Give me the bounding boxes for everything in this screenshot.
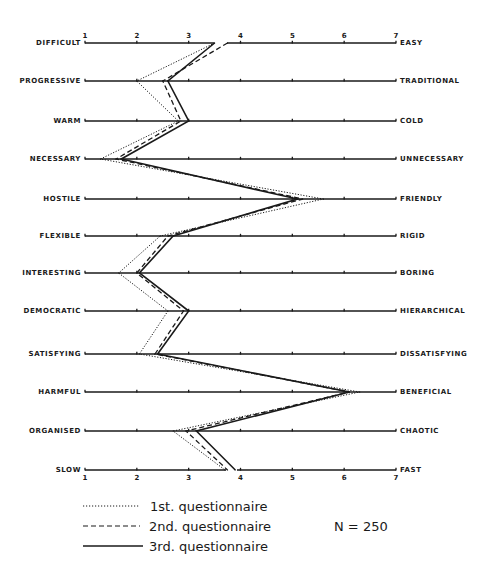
scale-row: DEMOCRATICHIERARCHICAL bbox=[24, 307, 466, 315]
legend-label-3rd: 3rd. questionnaire bbox=[149, 539, 268, 554]
sample-size-annotation: N = 250 bbox=[334, 519, 388, 534]
tick-label: 5 bbox=[290, 32, 295, 40]
left-pole-label: WARM bbox=[53, 117, 81, 125]
data-point bbox=[154, 353, 155, 354]
right-pole-label: BORING bbox=[400, 269, 435, 277]
data-point bbox=[139, 353, 140, 354]
scale-row: HOSTILEFRIENDLY bbox=[43, 195, 442, 203]
tick-label: 4 bbox=[238, 32, 243, 40]
data-point bbox=[139, 272, 140, 273]
legend: 1st. questionnaire 2nd. questionnaire 3r… bbox=[83, 499, 388, 554]
left-pole-label: ORGANISED bbox=[29, 427, 81, 435]
data-point bbox=[157, 353, 158, 354]
scale-row: 1234567SLOWFAST bbox=[56, 466, 422, 482]
data-point bbox=[116, 158, 117, 159]
scale-row: HARMFULBENEFICIAL bbox=[38, 388, 452, 396]
data-point bbox=[188, 120, 189, 121]
data-point bbox=[227, 469, 228, 470]
left-pole-label: FLEXIBLE bbox=[40, 232, 81, 240]
data-point bbox=[167, 80, 168, 81]
tick-label: 3 bbox=[186, 474, 191, 482]
tick-label: 7 bbox=[394, 32, 399, 40]
right-pole-label: TRADITIONAL bbox=[400, 77, 460, 85]
data-point bbox=[183, 310, 184, 311]
right-pole-label: BENEFICIAL bbox=[400, 388, 452, 396]
data-point bbox=[167, 235, 168, 236]
left-pole-label: NECESSARY bbox=[30, 155, 82, 163]
series-line-dotted bbox=[101, 43, 360, 470]
left-pole-label: DEMOCRATIC bbox=[24, 307, 81, 315]
data-point bbox=[323, 198, 324, 199]
scale-row: ORGANISEDCHAOTIC bbox=[29, 427, 439, 435]
data-point bbox=[235, 469, 236, 470]
tick-label: 7 bbox=[394, 474, 399, 482]
tick-label: 6 bbox=[342, 474, 347, 482]
tick-label: 1 bbox=[83, 32, 88, 40]
tick-label: 1 bbox=[83, 474, 88, 482]
series-line-solid bbox=[121, 43, 349, 470]
left-pole-label: DIFFICULT bbox=[36, 39, 81, 47]
data-point bbox=[167, 310, 168, 311]
data-point bbox=[160, 235, 161, 236]
data-point bbox=[136, 80, 137, 81]
data-point bbox=[173, 235, 174, 236]
legend-label-2nd: 2nd. questionnaire bbox=[149, 519, 271, 534]
right-pole-label: COLD bbox=[400, 117, 424, 125]
right-pole-label: RIGID bbox=[400, 232, 425, 240]
data-point bbox=[185, 430, 186, 431]
left-pole-label: SLOW bbox=[56, 466, 81, 474]
semantic-differential-chart: 1234567DIFFICULTEASYPROGRESSIVETRADITION… bbox=[0, 0, 485, 580]
data-point bbox=[173, 430, 174, 431]
left-pole-label: SATISFYING bbox=[29, 350, 81, 358]
right-pole-label: UNNECESSARY bbox=[400, 155, 464, 163]
axes-group: 1234567DIFFICULTEASYPROGRESSIVETRADITION… bbox=[19, 32, 467, 482]
data-point bbox=[162, 80, 163, 81]
data-point bbox=[214, 42, 215, 43]
left-pole-label: INTERESTING bbox=[22, 269, 81, 277]
scale-row: FLEXIBLERIGID bbox=[40, 232, 426, 240]
tick-label: 2 bbox=[134, 474, 139, 482]
scale-row: 1234567DIFFICULTEASY bbox=[36, 32, 423, 47]
series-line-dashed bbox=[116, 43, 349, 470]
scale-row: WARMCOLD bbox=[53, 117, 423, 125]
data-point bbox=[224, 469, 225, 470]
tick-label: 3 bbox=[186, 32, 191, 40]
data-point bbox=[349, 391, 350, 392]
left-pole-label: HOSTILE bbox=[43, 195, 81, 203]
data-point bbox=[297, 198, 298, 199]
tick-label: 5 bbox=[290, 474, 295, 482]
legend-label-1st: 1st. questionnaire bbox=[150, 499, 267, 514]
series-group bbox=[100, 42, 360, 470]
right-pole-label: FAST bbox=[400, 466, 422, 474]
right-pole-label: DISSATISFYING bbox=[400, 350, 467, 358]
right-pole-label: HIERARCHICAL bbox=[400, 307, 465, 315]
right-pole-label: CHAOTIC bbox=[400, 427, 439, 435]
data-point bbox=[188, 310, 189, 311]
data-point bbox=[227, 42, 228, 43]
tick-label: 6 bbox=[342, 32, 347, 40]
data-point bbox=[118, 272, 119, 273]
data-point bbox=[359, 391, 360, 392]
data-point bbox=[121, 158, 122, 159]
tick-label: 4 bbox=[238, 474, 243, 482]
data-point bbox=[196, 430, 197, 431]
scale-row: PROGRESSIVETRADITIONAL bbox=[19, 77, 459, 85]
data-point bbox=[136, 272, 137, 273]
right-pole-label: EASY bbox=[400, 39, 423, 47]
data-point bbox=[180, 120, 181, 121]
data-point bbox=[302, 198, 303, 199]
scale-row: INTERESTINGBORING bbox=[22, 269, 434, 277]
left-pole-label: HARMFUL bbox=[38, 388, 81, 396]
scale-row: SATISFYINGDISSATISFYING bbox=[29, 350, 468, 358]
data-point bbox=[100, 158, 101, 159]
left-pole-label: PROGRESSIVE bbox=[19, 77, 81, 85]
scale-row: NECESSARYUNNECESSARY bbox=[30, 155, 465, 163]
right-pole-label: FRIENDLY bbox=[400, 195, 443, 203]
data-point bbox=[178, 120, 179, 121]
tick-label: 2 bbox=[134, 32, 139, 40]
